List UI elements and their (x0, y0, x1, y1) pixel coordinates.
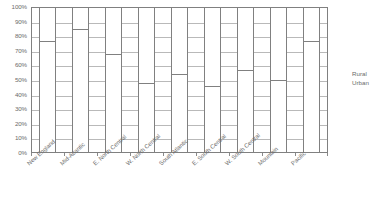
stacked-bar-chart: 100%90%80%70%60%50%40%30%20%10%0% New En… (0, 0, 387, 200)
x-axis-category-label: Mid-Atlantic (59, 141, 86, 166)
x-axis-category-label: Pacific (290, 150, 307, 166)
x-axis-category-label: W. North Central (125, 133, 161, 167)
x-axis-category-label: E. North Central (92, 134, 127, 167)
x-axis-category-label: E. South Central (191, 133, 227, 166)
legend-item-rural: Rural (352, 69, 387, 78)
legend-item-urban: Urban (352, 78, 387, 87)
x-axis-category-label: Mountain (257, 146, 279, 167)
chart-legend: Rural Urban (352, 69, 387, 87)
x-axis-category-label: New England (26, 138, 56, 166)
x-axis-category-label: W. South Central (224, 132, 261, 166)
x-axis-category-label: South Atlantic (158, 138, 189, 167)
x-axis-labels: New EnglandMid-AtlanticE. North CentralW… (0, 0, 387, 200)
